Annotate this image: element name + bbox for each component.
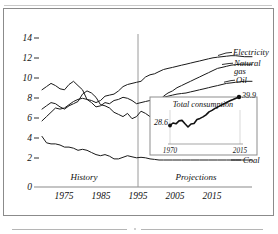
inset-start-marker xyxy=(168,124,172,128)
ytick-label-4: 4 xyxy=(27,133,32,143)
ytick-label-0: 0 xyxy=(27,182,32,192)
series-label-electricity: Electricity xyxy=(232,47,269,57)
xtick-label-2015: 2015 xyxy=(203,191,222,201)
inset-xtick-label-2015: 2015 xyxy=(233,147,248,155)
history-label: History xyxy=(70,172,98,182)
inset-xtick-label-1970: 1970 xyxy=(163,147,178,155)
xtick-label-1985: 1985 xyxy=(92,191,111,201)
ytick-label-12: 12 xyxy=(23,53,33,63)
ytick-label-10: 10 xyxy=(23,73,33,83)
clipped-caption-bottom-rule-left xyxy=(12,229,127,230)
inset-end-value: 39.9 xyxy=(241,91,256,100)
line-chart-plot: 14 12 10 8 6 4 2 0 Electric xyxy=(0,0,278,234)
leader-line-oil xyxy=(224,80,235,82)
series-label-oil: Oil xyxy=(236,75,248,85)
clipped-caption-bottom-rule-right xyxy=(141,229,263,230)
ytick-label-8: 8 xyxy=(27,93,32,103)
xtick-label-1975: 1975 xyxy=(55,191,74,201)
inset-start-value: 28.6 xyxy=(154,118,168,127)
leader-line-electricity xyxy=(218,52,232,55)
figure-container: 14 12 10 8 6 4 2 0 Electric xyxy=(0,0,278,234)
clipped-caption-bottom-dot xyxy=(134,228,136,230)
xtick-label-1995: 1995 xyxy=(129,191,148,201)
series-label-coal: Coal xyxy=(243,155,260,165)
inset-end-marker xyxy=(237,95,241,99)
ytick-label-2: 2 xyxy=(27,153,32,163)
leader-line-natural-gas xyxy=(222,63,233,64)
ytick-label-14: 14 xyxy=(23,33,33,43)
ytick-label-6: 6 xyxy=(27,113,32,123)
projections-label: Projections xyxy=(174,172,217,182)
inset-total-consumption: Total consumption 28.6 39.9 1970 2015 xyxy=(150,91,257,155)
xtick-label-2005: 2005 xyxy=(166,191,185,201)
